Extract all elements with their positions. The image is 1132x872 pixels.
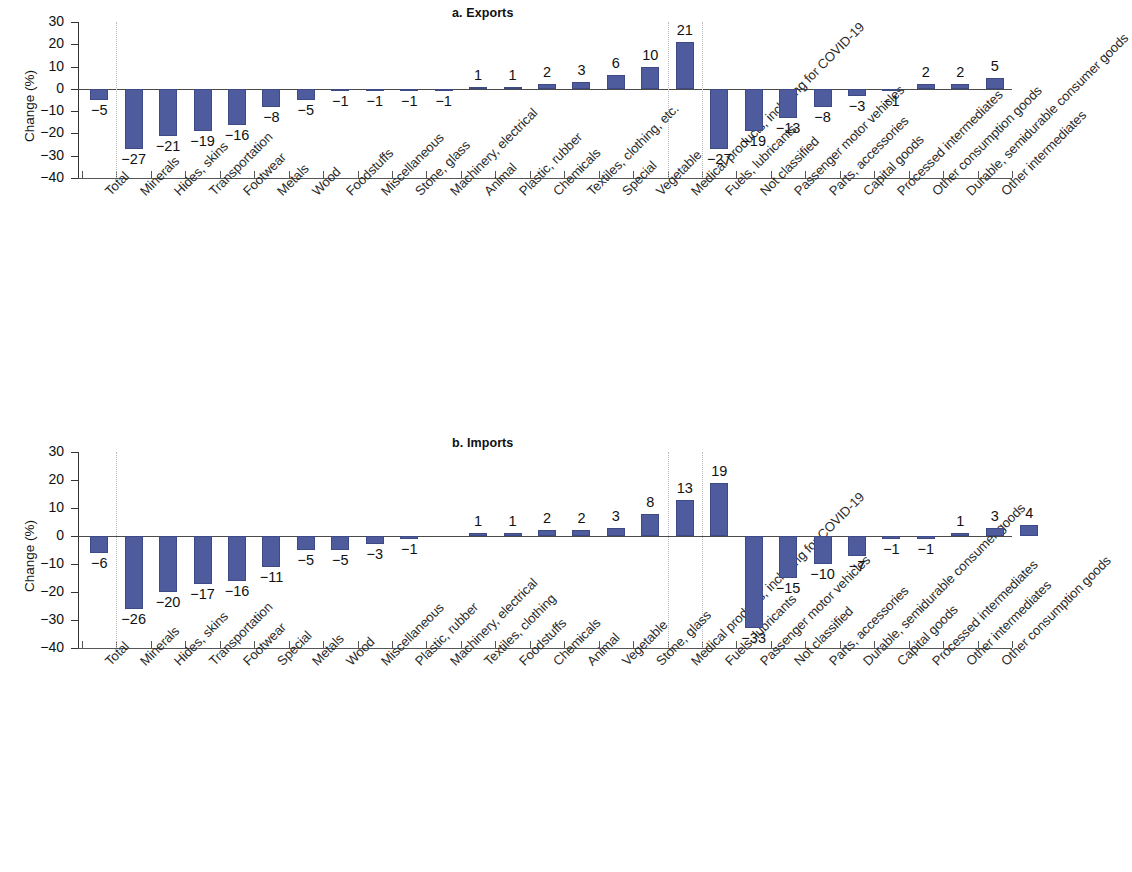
bar — [435, 89, 453, 91]
bar — [951, 84, 969, 88]
bar — [331, 536, 349, 550]
bar — [366, 536, 384, 544]
bar — [779, 89, 797, 118]
bar-value-label: 21 — [662, 22, 708, 38]
group-separator — [668, 22, 669, 178]
bar-value-label: −27 — [696, 151, 742, 167]
bar-value-label: 19 — [696, 463, 742, 479]
y-tick-label: −40 — [30, 169, 64, 185]
y-tick-mark — [71, 592, 78, 593]
bar-value-label: −16 — [214, 583, 260, 599]
bar — [262, 89, 280, 107]
bar-value-label: 8 — [627, 494, 673, 510]
y-tick-label: 10 — [30, 499, 64, 515]
y-tick-label: −40 — [30, 639, 64, 655]
bar — [814, 536, 832, 564]
bar-value-label: 4 — [1006, 505, 1052, 521]
y-tick-mark — [71, 452, 78, 453]
y-tick-label: −30 — [30, 611, 64, 627]
bar-value-label: 10 — [627, 47, 673, 63]
bar-value-label: −1 — [903, 541, 949, 557]
bar — [848, 536, 866, 556]
bar-value-label: −7 — [834, 558, 880, 574]
y-tick-mark — [71, 620, 78, 621]
bar — [641, 514, 659, 536]
bar — [917, 84, 935, 88]
bar — [194, 89, 212, 131]
bar — [331, 89, 349, 91]
bar — [228, 89, 246, 125]
x-tick-mark — [82, 641, 83, 648]
bar — [676, 500, 694, 536]
y-axis-line — [78, 452, 79, 649]
y-tick-mark — [71, 44, 78, 45]
bar — [641, 67, 659, 89]
bar — [951, 533, 969, 536]
bar-value-label: −6 — [76, 555, 122, 571]
y-tick-mark — [71, 508, 78, 509]
y-tick-mark — [71, 133, 78, 134]
bar — [469, 87, 487, 89]
y-tick-mark — [71, 648, 78, 649]
bar — [469, 533, 487, 536]
bar — [125, 89, 143, 149]
bar-value-label: −1 — [868, 93, 914, 109]
y-axis-title: Change (%) — [22, 70, 37, 142]
y-tick-mark — [71, 67, 78, 68]
category-label: Metals — [309, 631, 347, 669]
y-axis-title: Change (%) — [22, 520, 37, 592]
bar — [986, 78, 1004, 89]
bar — [297, 536, 315, 550]
bar — [710, 89, 728, 149]
bar — [607, 528, 625, 536]
bar — [297, 89, 315, 100]
y-tick-label: 30 — [30, 443, 64, 459]
bar — [159, 89, 177, 136]
bar — [90, 536, 108, 553]
y-axis-line — [78, 22, 79, 179]
x-tick-mark — [82, 171, 83, 178]
y-tick-label: 30 — [30, 13, 64, 29]
y-tick-mark — [71, 480, 78, 481]
bar — [676, 42, 694, 89]
bar — [572, 530, 590, 536]
bar — [538, 530, 556, 536]
bar-value-label: −5 — [76, 102, 122, 118]
bar — [262, 536, 280, 567]
bar — [986, 528, 1004, 536]
panel-title: b. Imports — [452, 436, 513, 450]
bar — [572, 82, 590, 89]
chart-panel-imports: 3020100−10−20−30−40Change (%)b. Imports−… — [0, 430, 1017, 872]
bar — [228, 536, 246, 581]
bar-value-label: −1 — [421, 93, 467, 109]
y-tick-label: 20 — [30, 35, 64, 51]
bar — [779, 536, 797, 578]
bar — [504, 533, 522, 536]
bar-value-label: −15 — [765, 580, 811, 596]
category-label: Wood — [343, 634, 378, 669]
bar-value-label: −11 — [248, 569, 294, 585]
y-tick-label: −30 — [30, 147, 64, 163]
bar — [504, 87, 522, 89]
category-label: Wood — [309, 164, 344, 199]
bar — [366, 89, 384, 91]
bar — [400, 89, 418, 91]
y-tick-mark — [71, 156, 78, 157]
bar — [848, 89, 866, 96]
chart-panel-exports: 3020100−10−20−30−40Change (%)a. Exports−… — [0, 0, 1017, 430]
category-label: Total — [102, 169, 132, 199]
bar — [882, 89, 900, 91]
y-tick-mark — [71, 536, 78, 537]
y-tick-mark — [71, 89, 78, 90]
bar — [90, 89, 108, 100]
y-tick-mark — [71, 22, 78, 23]
bar-value-label: 13 — [662, 480, 708, 496]
zero-baseline — [78, 536, 1012, 537]
bar-value-label: 3 — [593, 508, 639, 524]
y-tick-label: 20 — [30, 471, 64, 487]
bar — [159, 536, 177, 592]
bar — [745, 89, 763, 131]
bar — [125, 536, 143, 609]
bar — [814, 89, 832, 107]
bar-value-label: −1 — [386, 541, 432, 557]
